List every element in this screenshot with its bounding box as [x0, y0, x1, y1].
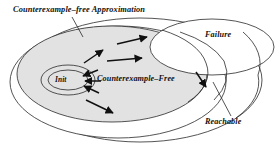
label-counterexample-free-approximation: Counterexample–free Approximation: [13, 6, 145, 14]
region-init-inner: [48, 70, 88, 90]
figure-counterexample-free-approximation: Counterexample–free Approximation Failur…: [0, 0, 280, 152]
label-reachable: Reachable: [205, 118, 241, 126]
label-counterexample-free: Counterexample–Free: [97, 75, 175, 83]
label-init: Init: [55, 76, 67, 83]
label-failure: Failure: [205, 31, 231, 39]
